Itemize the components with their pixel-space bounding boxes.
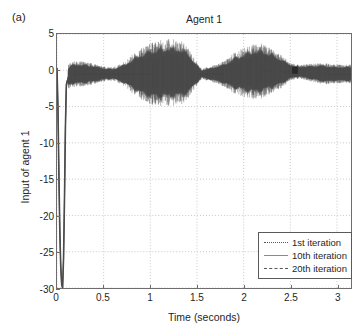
y-tick-mark [56, 143, 60, 144]
x-tick-label: 1.5 [177, 292, 217, 303]
y-tick-label: -25 [8, 247, 54, 258]
y-tick-mark [56, 252, 60, 253]
y-tick-label: 5 [8, 28, 54, 39]
x-tick-label: 0.5 [83, 292, 123, 303]
legend-label: 1st iteration [292, 237, 341, 248]
y-tick-label: -15 [8, 174, 54, 185]
y-tick-label: -20 [8, 210, 54, 221]
x-tick-label: 3 [318, 292, 358, 303]
x-tick-mark [150, 285, 151, 289]
chart-title: Agent 1 [56, 13, 352, 25]
x-tick-mark [197, 285, 198, 289]
x-tick-mark [291, 285, 292, 289]
y-tick-label: -5 [8, 101, 54, 112]
x-tick-label: 1 [130, 292, 170, 303]
x-tick-label: 2.5 [271, 292, 311, 303]
legend-swatch-1st-iteration-icon [264, 242, 288, 244]
x-tick-mark [338, 285, 339, 289]
figure-container: (a) Agent 1 50-5-10-15-20-25-30 00.511.5… [0, 0, 364, 332]
legend-item: 1st iteration [262, 236, 348, 249]
x-tick-label: 2 [224, 292, 264, 303]
y-tick-label: -10 [8, 137, 54, 148]
legend-item: 20th iteration [262, 262, 348, 275]
x-tick-mark [56, 285, 57, 289]
y-tick-label: 0 [8, 64, 54, 75]
x-tick-label: 0 [36, 292, 76, 303]
legend-swatch-10th-iteration-icon [264, 255, 288, 257]
legend-swatch-20th-iteration-icon [264, 268, 288, 270]
y-tick-mark [56, 33, 60, 34]
legend-label: 10th iteration [292, 250, 347, 261]
x-tick-mark [103, 285, 104, 289]
legend-label: 20th iteration [292, 263, 347, 274]
panel-label: (a) [12, 11, 26, 23]
y-tick-mark [56, 216, 60, 217]
y-axis-label: Input of agent 1 [19, 92, 31, 242]
x-tick-mark [244, 285, 245, 289]
y-tick-mark [56, 289, 60, 290]
x-axis-label: Time (seconds) [56, 311, 352, 323]
legend: 1st iteration 10th iteration 20th iterat… [258, 232, 352, 279]
y-tick-mark [56, 106, 60, 107]
y-tick-mark [56, 70, 60, 71]
legend-item: 10th iteration [262, 249, 348, 262]
y-tick-mark [56, 179, 60, 180]
